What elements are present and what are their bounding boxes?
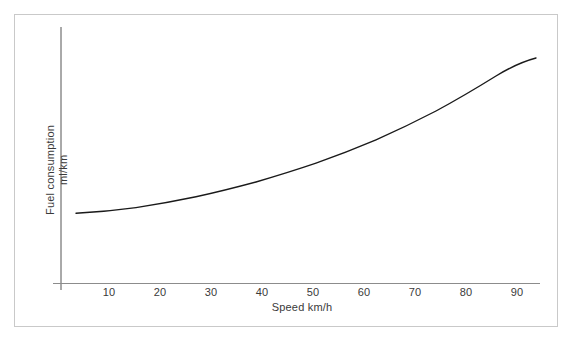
x-tick-label-10: 10: [103, 286, 116, 298]
chart-figure: 10 20 30 40 50 60 70 80 90 Speed km/h Fu…: [0, 0, 569, 340]
plot-area: [0, 0, 569, 340]
x-tick-label-60: 60: [358, 286, 371, 298]
fuel-consumption-curve: [76, 58, 536, 213]
x-axis-title: Speed km/h: [272, 301, 333, 313]
x-tick-label-30: 30: [205, 286, 218, 298]
x-tick-label-90: 90: [511, 286, 524, 298]
x-tick-label-20: 20: [154, 286, 167, 298]
x-tick-label-40: 40: [256, 286, 269, 298]
y-axis-title-line-1: Fuel consumption: [44, 125, 56, 215]
x-tick-label-70: 70: [409, 286, 422, 298]
x-tick-label-50: 50: [307, 286, 320, 298]
x-tick-label-80: 80: [460, 286, 473, 298]
y-axis-title-line-2: ml/km: [57, 155, 69, 185]
